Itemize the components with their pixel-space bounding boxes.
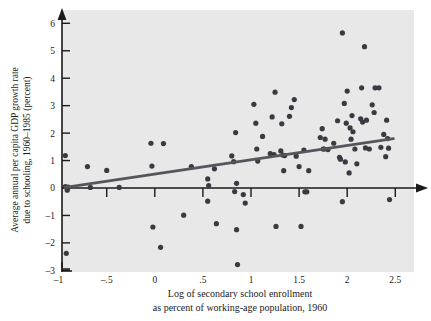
data-point (340, 199, 345, 204)
data-point (241, 192, 246, 197)
x-tick-label-1.5: 1.5 (293, 275, 305, 285)
data-point (292, 97, 297, 102)
y-tick-label-4: 4 (50, 74, 55, 84)
data-point (117, 185, 122, 190)
data-point (270, 114, 275, 119)
y-tick-label-1: 1 (50, 156, 55, 166)
y-tick-label-0: 0 (50, 183, 55, 193)
data-point (149, 163, 154, 168)
data-point (338, 157, 343, 162)
data-point (383, 154, 388, 159)
data-point (381, 132, 386, 137)
plot-area-background (62, 10, 414, 272)
data-point (306, 168, 311, 173)
data-point (235, 262, 240, 267)
data-point (348, 137, 353, 142)
y-tick-label-2: 2 (50, 129, 55, 139)
data-point (378, 145, 383, 150)
data-point (233, 130, 238, 135)
data-point (335, 118, 340, 123)
data-point (234, 181, 239, 186)
data-point (63, 153, 68, 158)
data-point (243, 201, 248, 206)
data-point (254, 146, 259, 151)
data-point (352, 146, 357, 151)
x-tick-label--0.5: –.5 (100, 275, 113, 285)
data-point (104, 168, 109, 173)
data-point (85, 164, 90, 169)
data-point (376, 85, 381, 90)
data-point (289, 105, 294, 110)
data-point (279, 121, 284, 126)
data-point (205, 199, 210, 204)
y-tick-label--2: –2 (45, 238, 56, 248)
x-tick-label-0.5: .5 (199, 275, 206, 285)
data-point (354, 161, 359, 166)
data-point (214, 221, 219, 226)
data-point (386, 146, 391, 151)
data-point (359, 85, 364, 90)
data-point (212, 166, 217, 171)
data-point (362, 44, 367, 49)
data-point (298, 224, 303, 229)
x-tick-label--1: –1 (53, 275, 64, 285)
data-point (181, 213, 186, 218)
data-point (287, 114, 292, 119)
x-axis-label-line2: as percent of working-age population, 19… (153, 302, 327, 313)
data-point (232, 189, 237, 194)
data-point (272, 90, 277, 95)
y-tick-label-6: 6 (50, 19, 55, 29)
x-tick-label-2: 2 (345, 275, 350, 285)
data-point (161, 141, 166, 146)
data-point (364, 118, 369, 123)
data-point (347, 170, 352, 175)
data-point (320, 126, 325, 131)
y-axis-label-line2: due to schooling, 1960–1985 (percent) (22, 77, 33, 224)
data-point (322, 137, 327, 142)
data-point (150, 224, 155, 229)
data-point (206, 183, 211, 188)
data-point (318, 135, 323, 140)
data-point (251, 102, 256, 107)
data-point (273, 224, 278, 229)
data-point (387, 197, 392, 202)
data-point (372, 110, 377, 115)
data-point (345, 89, 350, 94)
x-axis-label-line1: Log of secondary school enrollment (168, 288, 313, 299)
data-point (253, 121, 258, 126)
data-point (281, 168, 286, 173)
y-tick-label-5: 5 (50, 46, 55, 56)
data-point (350, 129, 355, 134)
data-point (342, 101, 347, 106)
y-axis-label: Average annual per capita GDP growth rat… (10, 67, 33, 233)
x-tick-label-1: 1 (249, 275, 254, 285)
data-point (88, 185, 93, 190)
data-point (384, 118, 389, 123)
y-axis-label-line1: Average annual per capita GDP growth rat… (10, 67, 20, 233)
x-tick-label-2.5: 2.5 (389, 275, 401, 285)
y-tick-label--1: –1 (45, 211, 56, 221)
data-point (344, 121, 349, 126)
data-point (205, 176, 210, 181)
data-point (343, 159, 348, 164)
x-tick-label-0: 0 (152, 275, 157, 285)
chart-canvas: –3–2–10123456 –1–.50.511.522.5 Average a… (0, 0, 431, 321)
data-point (367, 146, 372, 151)
data-point (370, 102, 375, 107)
data-point (158, 245, 163, 250)
y-tick-label-3: 3 (50, 101, 55, 111)
data-point (340, 30, 345, 35)
data-point (229, 153, 234, 158)
scatter-chart-figure: –3–2–10123456 –1–.50.511.522.5 Average a… (0, 0, 431, 321)
data-point (64, 251, 69, 256)
data-point (297, 164, 302, 169)
data-point (234, 227, 239, 232)
data-point (331, 141, 336, 146)
data-point (260, 134, 265, 139)
data-point (148, 141, 153, 146)
data-point (304, 189, 309, 194)
data-point (349, 113, 354, 118)
